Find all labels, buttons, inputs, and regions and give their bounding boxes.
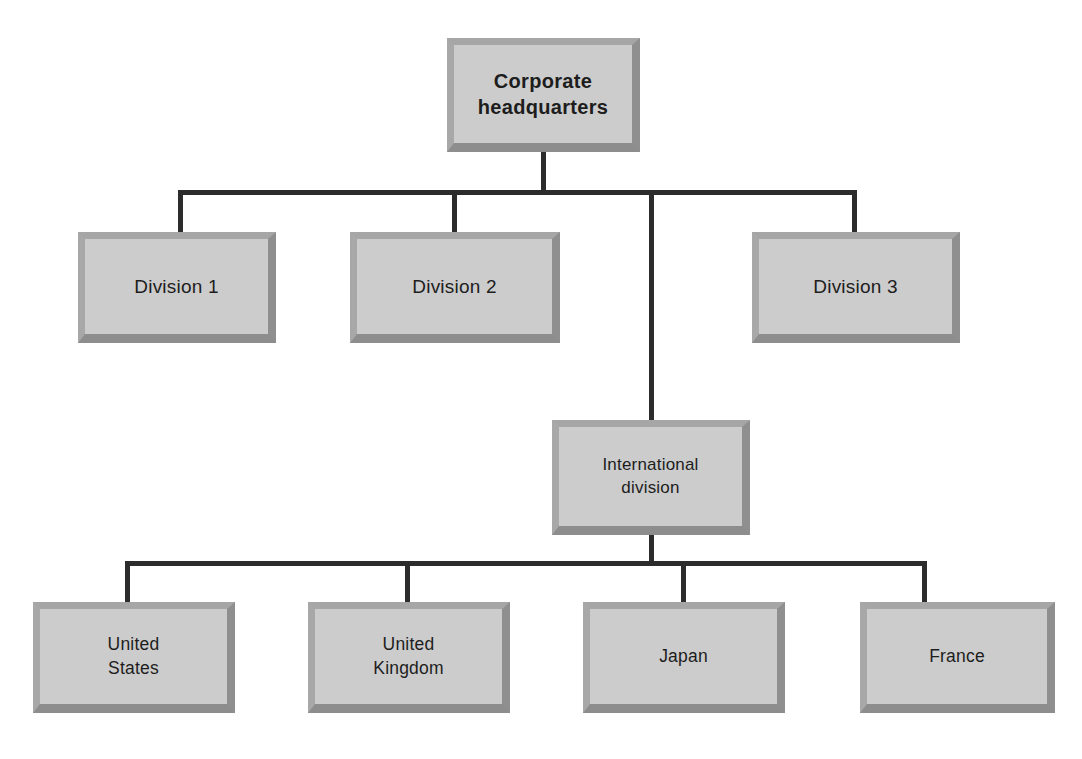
connector-drop-japan: [681, 561, 686, 604]
connector-level2-bus: [178, 190, 857, 195]
node-division-1-label: Division 1: [91, 274, 262, 299]
node-corporate-headquarters-label: Corporate headquarters: [460, 68, 626, 121]
connector-drop-united-states: [125, 561, 130, 604]
node-international-division-label: International division: [565, 454, 736, 499]
node-division-2-inner: Division 2: [357, 274, 552, 299]
connector-drop-united-kingdom: [405, 561, 410, 604]
node-united-kingdom[interactable]: United Kingdom: [308, 602, 510, 713]
node-japan[interactable]: Japan: [583, 602, 785, 713]
node-japan-inner: Japan: [590, 645, 777, 668]
node-division-2[interactable]: Division 2: [350, 232, 560, 343]
node-united-states[interactable]: United States: [33, 602, 235, 713]
node-united-states-inner: United States: [40, 633, 227, 679]
connector-drop-division-1: [178, 190, 183, 234]
node-france-inner: France: [867, 645, 1047, 668]
node-division-3-inner: Division 3: [759, 274, 952, 299]
node-international-division[interactable]: International division: [552, 420, 750, 535]
node-division-1-inner: Division 1: [85, 274, 268, 299]
node-france-label: France: [873, 645, 1041, 668]
connector-drop-division-3: [852, 190, 857, 234]
connector-drop-division-2: [452, 190, 457, 234]
connector-international-stem: [649, 535, 654, 563]
node-united-kingdom-inner: United Kingdom: [315, 633, 502, 679]
node-france[interactable]: France: [860, 602, 1055, 713]
node-corporate-headquarters-inner: Corporate headquarters: [454, 68, 632, 121]
node-division-2-label: Division 2: [363, 274, 546, 299]
node-division-3-label: Division 3: [765, 274, 946, 299]
node-united-states-label: United States: [46, 633, 221, 679]
node-united-kingdom-label: United Kingdom: [321, 633, 496, 679]
connector-root-stem: [541, 152, 546, 195]
node-international-division-inner: International division: [559, 454, 742, 499]
node-japan-label: Japan: [596, 645, 771, 668]
node-division-1[interactable]: Division 1: [78, 232, 276, 343]
org-chart-canvas: Corporate headquarters Division 1 Divisi…: [0, 0, 1082, 759]
node-corporate-headquarters[interactable]: Corporate headquarters: [447, 38, 640, 152]
connector-drop-international: [649, 190, 654, 422]
connector-level4-bus: [125, 561, 927, 566]
connector-drop-france: [922, 561, 927, 604]
node-division-3[interactable]: Division 3: [752, 232, 960, 343]
